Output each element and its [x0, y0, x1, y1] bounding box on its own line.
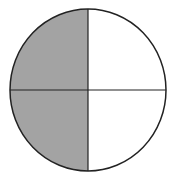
- quadrant-bottom-right: [88, 90, 166, 171]
- quadrant-top-left: [10, 9, 88, 90]
- quadrant-bottom-left: [10, 90, 88, 171]
- quadrant-top-right: [88, 9, 166, 90]
- fraction-circle-diagram: [0, 0, 181, 179]
